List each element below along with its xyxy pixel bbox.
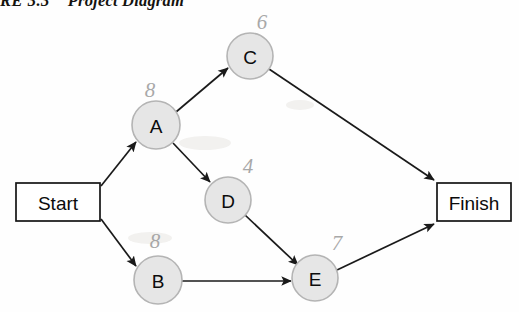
node-finish[interactable]: Finish xyxy=(437,183,511,221)
node-a-label: A xyxy=(150,116,163,137)
annotation-duration-b: 8 xyxy=(150,229,161,253)
node-e[interactable]: E xyxy=(292,255,338,301)
edge-c-to-finish xyxy=(269,69,434,180)
node-e-label: E xyxy=(309,269,322,290)
annotation-duration-a: 8 xyxy=(145,78,156,102)
start-box-label: Start xyxy=(38,193,79,214)
annotation-duration-d: 4 xyxy=(243,154,254,178)
edge-start-to-b xyxy=(101,219,136,266)
node-start[interactable]: Start xyxy=(16,183,100,221)
node-d-label: D xyxy=(221,191,235,212)
node-c-label: C xyxy=(243,47,257,68)
edge-e-to-finish xyxy=(337,224,434,270)
annotation-duration-c: 6 xyxy=(257,10,268,34)
node-c[interactable]: C xyxy=(227,33,273,79)
node-a[interactable]: A xyxy=(132,101,180,149)
edge-d-to-e xyxy=(245,215,298,265)
project-diagram-figure: RE 3.3Project Diagram xyxy=(0,0,519,312)
finish-box-label: Finish xyxy=(449,193,500,214)
node-b-label: B xyxy=(152,271,165,292)
edge-start-to-a xyxy=(101,142,136,186)
annotation-duration-e: 7 xyxy=(332,231,344,255)
edge-a-to-c xyxy=(176,68,228,112)
network-diagram-canvas: Start Finish A B C D E 8 xyxy=(0,0,519,312)
node-b[interactable]: B xyxy=(134,256,182,304)
node-d[interactable]: D xyxy=(205,177,251,223)
